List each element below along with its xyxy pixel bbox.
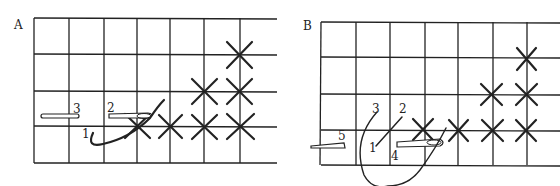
cross-stitch-diagram: A [0, 0, 560, 186]
panel-a-number-1: 1 [82, 127, 90, 141]
panel-b-number-3: 3 [372, 102, 380, 116]
panel-b-label: B [303, 19, 312, 33]
panel-b-number-4: 4 [391, 149, 399, 163]
panel-b-needle-end [311, 143, 345, 148]
panel-a: A [13, 18, 277, 163]
panel-a-number-3: 3 [73, 102, 81, 116]
panel-b-number-2: 2 [399, 102, 407, 116]
panel-b: B [303, 19, 560, 186]
panel-a-number-2: 2 [107, 101, 115, 115]
panel-a-thread [91, 100, 164, 145]
panel-b-number-5: 5 [338, 129, 346, 143]
panel-a-label: A [13, 18, 23, 32]
panel-b-number-1: 1 [369, 141, 377, 155]
